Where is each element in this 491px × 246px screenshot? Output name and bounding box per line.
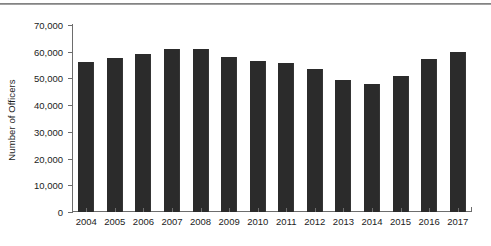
x-axis-tick-label: 2017 (440, 216, 476, 227)
y-axis-tick-label: 30,000 (3, 126, 63, 137)
x-axis-tick-mark (315, 208, 316, 212)
bar (278, 63, 294, 212)
x-axis-tick-mark (286, 208, 287, 212)
y-axis-tick-label: 50,000 (3, 73, 63, 84)
y-axis-tick-mark (68, 105, 72, 106)
bar (364, 84, 380, 212)
x-axis-tick-mark (201, 208, 202, 212)
x-axis-tick-mark (86, 208, 87, 212)
x-axis-tick-mark (143, 208, 144, 212)
y-axis-tick-label: 60,000 (3, 46, 63, 57)
y-axis-tick-mark (68, 52, 72, 53)
y-axis-tick-mark (68, 212, 72, 213)
bar-chart-figure: Number of Officers 010,00020,00030,00040… (0, 0, 491, 246)
top-divider-rule (0, 3, 491, 5)
bar (221, 57, 237, 212)
y-axis-tick-label: 40,000 (3, 100, 63, 111)
y-axis-tick-mark (68, 132, 72, 133)
plot-area (72, 25, 472, 212)
x-axis-tick-mark (372, 208, 373, 212)
x-axis-tick-mark (229, 208, 230, 212)
x-axis-tick-mark (458, 208, 459, 212)
y-axis-tick-label: 20,000 (3, 153, 63, 164)
bar (335, 80, 351, 212)
x-axis-tick-label-group: 2004200520062007200820092010201120122013… (72, 216, 472, 236)
bar (450, 52, 466, 212)
y-axis-tick-mark (68, 78, 72, 79)
x-axis-tick-mark (429, 208, 430, 212)
bar (307, 69, 323, 212)
bar (193, 49, 209, 212)
x-axis-tick-mark (258, 208, 259, 212)
bar (393, 76, 409, 212)
x-axis-tick-mark (172, 208, 173, 212)
y-axis-tick-label: 0 (3, 207, 63, 218)
bar (421, 59, 437, 212)
bar (250, 61, 266, 212)
bar (78, 62, 94, 212)
y-axis-tick-mark (68, 185, 72, 186)
bar-series (72, 25, 472, 212)
y-axis-tick-mark (68, 159, 72, 160)
y-axis-tick-mark (68, 25, 72, 26)
x-axis-tick-mark (343, 208, 344, 212)
x-axis-tick-mark (115, 208, 116, 212)
y-axis-tick-label: 70,000 (3, 20, 63, 31)
x-axis-tick-mark (401, 208, 402, 212)
y-axis-tick-label-group: 010,00020,00030,00040,00050,00060,00070,… (0, 0, 68, 246)
bar (107, 58, 123, 212)
bar (164, 49, 180, 212)
y-axis-tick-label: 10,000 (3, 180, 63, 191)
bar (135, 54, 151, 212)
